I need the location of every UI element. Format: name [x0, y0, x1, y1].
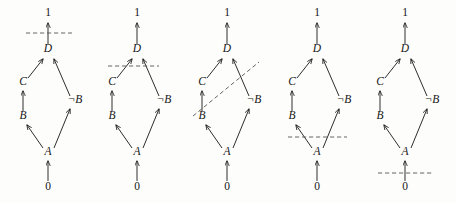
edge-c-to-d — [385, 59, 400, 78]
edge-notb-to-d — [143, 59, 159, 96]
cut-line-diagonal — [193, 62, 259, 116]
edge-a-to-b — [27, 125, 43, 148]
panel-cut-above-d: 1DC¬BBA0 — [19, 6, 82, 192]
panel-cut-diagonal: 1DC¬BBA0 — [193, 6, 261, 192]
node-label-bottom: 0 — [314, 180, 320, 192]
node-label-c: C — [198, 75, 206, 87]
node-label-d: D — [43, 42, 53, 54]
node-label-bottom: 0 — [134, 180, 140, 192]
node-label-notb: ¬B — [247, 93, 262, 105]
node-label-c: C — [376, 75, 384, 87]
node-label-b: B — [108, 109, 115, 121]
node-label-c: C — [19, 75, 27, 87]
node-label-d: D — [132, 42, 142, 54]
node-label-c: C — [108, 75, 116, 87]
edge-a-to-b — [206, 125, 222, 148]
edge-notb-to-d — [233, 59, 249, 96]
edge-a-to-notb — [411, 109, 427, 148]
node-label-a: A — [312, 145, 321, 157]
node-label-a: A — [222, 145, 231, 157]
node-label-b: B — [198, 109, 205, 121]
edge-a-to-notb — [233, 109, 249, 148]
node-label-bottom: 0 — [224, 180, 230, 192]
node-label-notb: ¬B — [425, 93, 440, 105]
edge-a-to-b — [116, 125, 132, 148]
node-label-notb: ¬B — [337, 93, 352, 105]
proof-diagram-figure: 1DC¬BBA01DC¬BBA01DC¬BBA01DC¬BBA01DC¬BBA0 — [0, 0, 456, 203]
panels-root: 1DC¬BBA01DC¬BBA01DC¬BBA01DC¬BBA01DC¬BBA0 — [19, 6, 439, 192]
node-label-top: 1 — [402, 6, 408, 18]
edge-a-to-b — [384, 125, 400, 148]
edge-c-to-d — [207, 59, 222, 78]
edge-notb-to-d — [54, 59, 70, 96]
panel-cut-above-zero: 1DC¬BBA0 — [376, 6, 439, 192]
node-label-c: C — [288, 75, 296, 87]
node-label-d: D — [400, 42, 410, 54]
node-label-a: A — [132, 145, 141, 157]
node-label-top: 1 — [224, 6, 230, 18]
edge-c-to-d — [117, 59, 132, 78]
panel-cut-above-a: 1DC¬BBA0 — [288, 6, 351, 192]
node-label-b: B — [288, 109, 295, 121]
node-label-notb: ¬B — [68, 93, 83, 105]
node-label-a: A — [400, 145, 409, 157]
edge-a-to-b — [296, 125, 312, 148]
edge-a-to-notb — [323, 109, 339, 148]
edge-notb-to-d — [323, 59, 339, 96]
edge-c-to-d — [28, 59, 43, 78]
edge-a-to-notb — [143, 109, 159, 148]
node-label-a: A — [43, 145, 52, 157]
node-label-notb: ¬B — [157, 93, 172, 105]
panel-cut-below-d: 1DC¬BBA0 — [108, 6, 171, 192]
edge-c-to-d — [297, 59, 312, 78]
node-label-d: D — [312, 42, 322, 54]
edge-notb-to-d — [411, 59, 427, 96]
node-label-top: 1 — [314, 6, 320, 18]
node-label-top: 1 — [45, 6, 51, 18]
edge-a-to-notb — [54, 109, 70, 148]
node-label-b: B — [19, 109, 26, 121]
node-label-top: 1 — [134, 6, 140, 18]
node-label-bottom: 0 — [45, 180, 51, 192]
diagram-canvas: 1DC¬BBA01DC¬BBA01DC¬BBA01DC¬BBA01DC¬BBA0 — [0, 0, 456, 203]
node-label-bottom: 0 — [402, 180, 408, 192]
node-label-b: B — [376, 109, 383, 121]
node-label-d: D — [222, 42, 232, 54]
